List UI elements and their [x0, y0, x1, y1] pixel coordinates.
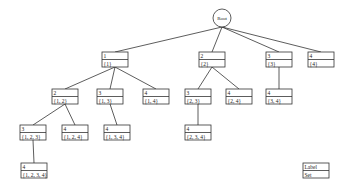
tree-edge — [115, 27, 222, 52]
tree-node: 4{1, 2, 3, 4} — [21, 163, 47, 179]
tree-node: 3{1, 3} — [97, 89, 123, 105]
node-set: {3, 4} — [268, 98, 282, 105]
tree-node: 4{4} — [308, 52, 334, 68]
tree-node: 4{2, 4} — [226, 89, 252, 105]
tree-edge — [222, 27, 321, 52]
tree-edge — [65, 67, 115, 89]
tree-node: 4{1, 3, 4} — [104, 125, 130, 141]
node-label: 3 — [187, 90, 190, 96]
node-label: 3 — [99, 90, 102, 96]
tree-edge — [110, 67, 115, 89]
node-set: {4} — [310, 61, 318, 68]
tree-node: 4{1, 2, 4} — [62, 125, 88, 141]
node-set: {2} — [201, 61, 209, 68]
node-set: {1, 3} — [99, 98, 113, 105]
tree-edge — [33, 104, 65, 125]
tree-node: 3{2, 3} — [185, 89, 211, 105]
tree-node: 2{2} — [199, 52, 225, 68]
node-label: 2 — [54, 90, 57, 96]
node-label: 4 — [145, 90, 148, 96]
tree-node: 3{3} — [266, 52, 292, 68]
tree-node: 3{1, 2, 3} — [20, 125, 46, 141]
node-set: {1} — [104, 61, 112, 68]
tree-edge — [212, 67, 239, 89]
root-node: Root — [213, 9, 231, 27]
node-set: {1, 2} — [54, 98, 68, 105]
node-set: {2, 3, 4} — [187, 134, 206, 141]
node-label: 1 — [104, 53, 107, 59]
legend-set-text: Set — [305, 172, 313, 178]
tree-node: 1{1} — [102, 52, 128, 68]
tree-node: 4{2, 3, 4} — [185, 125, 211, 141]
node-label: 4 — [64, 126, 67, 132]
node-set: {1, 2, 3} — [22, 134, 41, 141]
node-label: 4 — [228, 90, 231, 96]
tree-node: 4{3, 4} — [266, 89, 292, 105]
node-set: {1, 4} — [145, 98, 159, 105]
node-set: {3} — [268, 61, 276, 68]
tree-node: 4{1, 4} — [143, 89, 169, 105]
node-label: 4 — [310, 53, 313, 59]
set-enumeration-tree: Root 1{1}2{2}3{3}4{4}2{1, 2}3{1, 3}4{1, … — [0, 0, 348, 190]
tree-nodes: 1{1}2{2}3{3}4{4}2{1, 2}3{1, 3}4{1, 4}3{2… — [20, 52, 334, 179]
legend: Label Set — [303, 163, 329, 178]
node-label: 4 — [268, 90, 271, 96]
node-set: {2, 4} — [228, 98, 242, 105]
tree-edge — [33, 140, 34, 163]
tree-edge — [212, 27, 222, 52]
node-set: {2, 3} — [187, 98, 201, 105]
node-label: 2 — [201, 53, 204, 59]
tree-edge — [198, 67, 212, 89]
tree-edge — [65, 104, 75, 125]
node-label: 4 — [187, 126, 190, 132]
tree-edge — [110, 104, 117, 125]
node-set: {1, 3, 4} — [106, 134, 125, 141]
node-label: 4 — [106, 126, 109, 132]
node-set: {1, 2, 4} — [64, 134, 83, 141]
tree-edge — [115, 67, 156, 89]
node-set: {1, 2, 3, 4} — [23, 172, 48, 179]
node-label: 3 — [22, 126, 25, 132]
node-label: 3 — [268, 53, 271, 59]
legend-label-text: Label — [305, 164, 318, 170]
tree-node: 2{1, 2} — [52, 89, 78, 105]
node-label: 4 — [23, 164, 26, 170]
root-label: Root — [217, 16, 227, 21]
